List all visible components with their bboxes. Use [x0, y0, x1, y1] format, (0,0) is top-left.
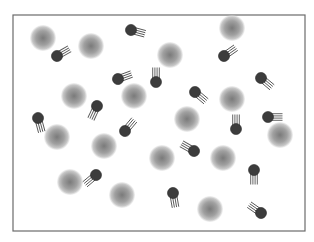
diagram-frame [13, 15, 305, 231]
large-sphere [174, 106, 200, 132]
large-sphere [210, 145, 236, 171]
large-sphere [121, 83, 147, 109]
large-sphere [267, 122, 293, 148]
large-sphere [57, 169, 83, 195]
particle-head [249, 165, 260, 176]
particle-head [151, 77, 162, 88]
diagram-canvas [0, 0, 314, 242]
large-sphere [197, 196, 223, 222]
large-sphere [109, 182, 135, 208]
large-sphere [149, 145, 175, 171]
large-sphere [91, 133, 117, 159]
large-sphere [30, 25, 56, 51]
large-sphere [219, 86, 245, 112]
large-sphere [44, 124, 70, 150]
large-sphere [78, 33, 104, 59]
particle-diagram [0, 0, 314, 242]
particle-head [263, 112, 274, 123]
large-sphere [61, 83, 87, 109]
large-sphere [219, 15, 245, 41]
particle-head [231, 124, 242, 135]
large-sphere [157, 42, 183, 68]
